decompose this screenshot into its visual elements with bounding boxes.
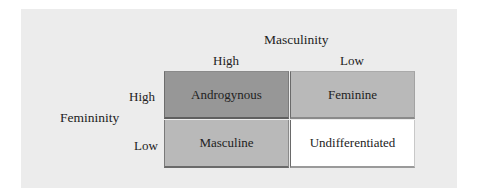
cell-label: Masculine <box>199 135 253 151</box>
column-level-low: Low <box>340 53 364 69</box>
row-level-low: Low <box>134 138 158 154</box>
cell-label: Undifferentiated <box>310 135 396 151</box>
cell-feminine: Feminine <box>290 71 415 119</box>
cell-masculine: Masculine <box>164 120 289 168</box>
quadrant-grid: Androgynous Feminine Masculine Undiffere… <box>164 71 415 168</box>
cell-androgynous: Androgynous <box>164 71 289 119</box>
cell-undifferentiated: Undifferentiated <box>290 120 415 168</box>
row-axis-title: Femininity <box>60 110 119 126</box>
cell-label: Androgynous <box>191 87 262 103</box>
cell-label: Feminine <box>328 87 377 103</box>
column-level-high: High <box>213 53 239 69</box>
column-axis-title: Masculinity <box>264 32 329 48</box>
row-level-high: High <box>129 89 155 105</box>
